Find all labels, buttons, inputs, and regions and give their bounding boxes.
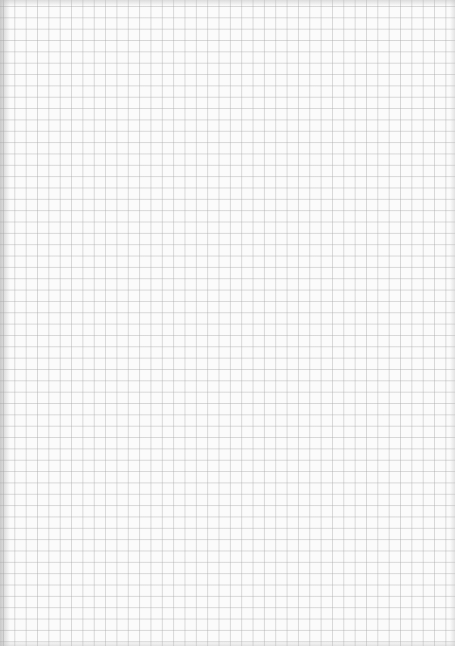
left-edge-shadow: [0, 0, 10, 646]
top-edge-shadow: [0, 0, 455, 6]
graph-paper-sheet: [0, 0, 455, 646]
bottom-edge-shadow: [0, 641, 455, 646]
right-edge-shadow: [450, 0, 455, 646]
